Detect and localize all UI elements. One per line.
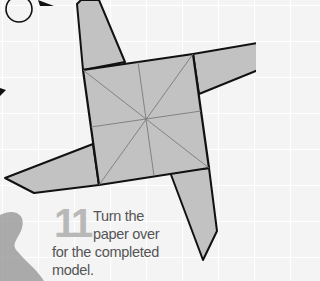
center-square	[83, 54, 209, 185]
bottom-flap	[170, 168, 217, 260]
rotate-arrow-icon	[6, 0, 54, 22]
shadow-shape	[0, 212, 44, 281]
right-flap	[193, 43, 256, 94]
arrowhead-icon	[0, 88, 6, 96]
instruction-line-2: paper over	[93, 225, 159, 243]
instruction-line-1: Turn the	[93, 207, 144, 225]
left-flap	[5, 144, 99, 193]
step-number: 11	[54, 203, 90, 243]
top-flap	[77, 0, 125, 70]
instruction-line-4: model.	[52, 261, 94, 279]
instruction-line-3: for the completed	[52, 243, 159, 261]
